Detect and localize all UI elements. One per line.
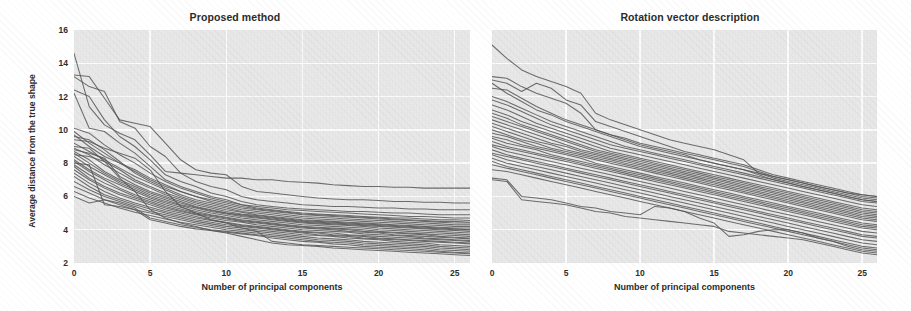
panel-title-right: Rotation vector description xyxy=(492,11,888,23)
y-tick-label: 12 xyxy=(48,92,68,102)
y-tick-label: 10 xyxy=(48,125,68,135)
x-axis-label-left: Number of principal components xyxy=(74,282,470,292)
x-axis-label-right: Number of principal components xyxy=(492,282,877,292)
y-tick-label: 6 xyxy=(48,191,68,201)
curve-series-right xyxy=(492,30,877,263)
curve-series-left xyxy=(74,30,470,263)
x-tick-label: 5 xyxy=(148,268,153,278)
x-tick-label: 10 xyxy=(635,268,644,278)
y-tick-label: 16 xyxy=(48,25,68,35)
x-tick-label: 25 xyxy=(857,268,866,278)
x-tick-label: 10 xyxy=(222,268,231,278)
x-tick-label: 20 xyxy=(374,268,383,278)
plot-area-right xyxy=(492,30,877,263)
panel-rotation-vector-description: Rotation vector description 0510152025 N… xyxy=(441,0,911,311)
x-tick-label: 20 xyxy=(783,268,792,278)
x-tick-label: 0 xyxy=(490,268,495,278)
plot-area-left xyxy=(74,30,470,263)
x-tick-label: 15 xyxy=(298,268,307,278)
curve-line xyxy=(74,53,470,188)
x-tick-label: 5 xyxy=(564,268,569,278)
curve-line xyxy=(74,143,470,226)
x-tick-label: 15 xyxy=(709,268,718,278)
y-tick-label: 2 xyxy=(48,258,68,268)
panel-proposed-method: Proposed method 2468101214160510152025 N… xyxy=(0,0,470,311)
x-tick-label: 0 xyxy=(72,268,77,278)
panel-title-left: Proposed method xyxy=(0,11,470,23)
y-tick-label: 4 xyxy=(48,225,68,235)
y-axis-label-left: Average distance from the true shape xyxy=(27,51,37,251)
figure-two-panel-line-charts: Proposed method 2468101214160510152025 N… xyxy=(0,0,911,311)
y-tick-label: 8 xyxy=(48,158,68,168)
y-tick-label: 14 xyxy=(48,58,68,68)
